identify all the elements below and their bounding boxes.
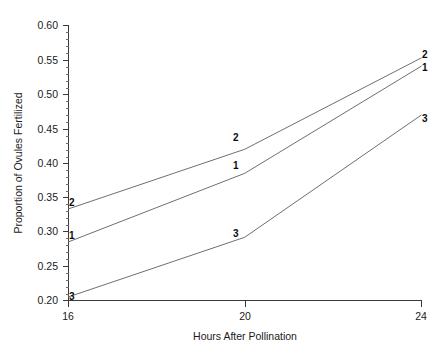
- x-axis-title: Hours After Pollination: [193, 330, 297, 342]
- x-tick-label: 20: [239, 310, 251, 322]
- series-3-point-label-24: 3: [422, 113, 428, 124]
- x-tick-label: 24: [415, 310, 427, 322]
- series-1-point-label-24: 1: [422, 62, 428, 73]
- series-1-point-label-20: 1: [233, 160, 239, 171]
- x-tick-label: 16: [62, 310, 74, 322]
- y-tick-label: 0.20: [38, 294, 59, 306]
- y-tick-label: 0.30: [38, 225, 59, 237]
- series-3-point-label-16: 3: [69, 291, 75, 302]
- y-tick-label: 0.55: [38, 54, 59, 66]
- series-1-point-label-16: 1: [69, 230, 75, 241]
- y-axis-title: Proportion of Ovules Fertilized: [12, 92, 24, 233]
- line-chart: 0.60 0.55 0.50 0.45 0.40 0.35 0.30 0.25 …: [0, 0, 448, 346]
- y-tick-label: 0.25: [38, 260, 59, 272]
- chart-figure: 0.60 0.55 0.50 0.45 0.40 0.35 0.30 0.25 …: [0, 0, 448, 346]
- series-2-point-label-20: 2: [233, 132, 239, 143]
- y-tick-label: 0.60: [38, 19, 59, 31]
- series-3-point-label-20: 3: [233, 228, 239, 239]
- series-2-point-label-24: 2: [422, 49, 428, 60]
- y-tick-label: 0.45: [38, 123, 59, 135]
- y-tick-label: 0.40: [38, 157, 59, 169]
- y-tick-label: 0.50: [38, 88, 59, 100]
- series-2-point-label-16: 2: [69, 197, 75, 208]
- y-tick-label: 0.35: [38, 191, 59, 203]
